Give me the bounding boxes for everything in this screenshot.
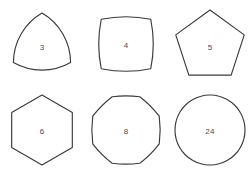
shape-label-8: 8 — [84, 128, 168, 136]
shape-label-6: 6 — [0, 128, 84, 136]
shape-cell-8: 8 — [84, 88, 168, 176]
shape-label-5: 5 — [168, 44, 252, 52]
shape-label-3: 3 — [0, 44, 84, 52]
shape-cell-3: 3 — [0, 2, 84, 90]
shape-cell-24: 24 — [168, 88, 252, 176]
shape-label-24: 24 — [168, 128, 252, 136]
shape-cell-5: 5 — [168, 2, 252, 90]
shape-cell-6: 6 — [0, 88, 84, 176]
shape-cell-4: 4 — [84, 2, 168, 90]
shape-label-4: 4 — [84, 42, 168, 50]
reuleaux-polygon-figure: 3 4 5 6 8 24 — [0, 0, 252, 176]
